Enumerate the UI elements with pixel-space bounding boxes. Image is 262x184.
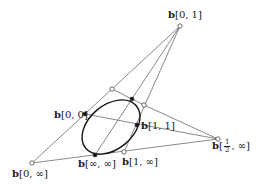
point-b11 — [135, 123, 139, 127]
line-b01-binfinf — [95, 26, 180, 155]
point-b1inf — [122, 150, 126, 154]
label-binfinf-suffix: [∞, ∞] — [85, 158, 116, 169]
label-b11-suffix: [1, 1] — [148, 120, 175, 131]
fraction-one-half: 12 — [224, 139, 230, 154]
label-b11: b[1, 1] — [141, 121, 175, 131]
label-b00: b[0, 0] — [54, 110, 88, 120]
label-b1inf: b[1, ∞] — [122, 157, 158, 167]
label-b01-suffix: [0, 1] — [175, 9, 202, 20]
label-b00-prefix: b — [54, 109, 61, 120]
label-b11-prefix: b — [141, 120, 148, 131]
point-open-b — [142, 103, 146, 107]
label-b0inf: b[0, ∞] — [12, 169, 48, 179]
label-bhalfinf-tail: , ∞] — [231, 140, 250, 151]
label-binfinf: b[∞, ∞] — [78, 159, 116, 169]
label-bhalfinf: b[12, ∞] — [212, 139, 250, 154]
label-b01: b[0, 1] — [168, 10, 202, 20]
label-b01-prefix: b — [168, 9, 175, 20]
point-b01 — [178, 24, 182, 28]
point-b0inf — [30, 161, 34, 165]
point-open-a — [110, 87, 114, 91]
label-binfinf-prefix: b — [78, 158, 85, 169]
label-b0inf-prefix: b — [12, 168, 19, 179]
label-b0inf-suffix: [0, ∞] — [19, 168, 48, 179]
fraction-denominator: 2 — [225, 147, 229, 154]
point-top-tangent — [130, 97, 134, 101]
label-b1inf-prefix: b — [122, 156, 129, 167]
label-b00-suffix: [0, 0] — [61, 109, 88, 120]
ellipse-curve — [72, 89, 151, 165]
point-binfinf — [93, 153, 97, 157]
label-bhalfinf-prefix: b — [212, 140, 219, 151]
line-b01-b1inf — [124, 26, 180, 152]
line-b01-b0inf — [32, 26, 180, 163]
line-opena-openb — [112, 89, 144, 105]
label-b1inf-suffix: [1, ∞] — [129, 156, 158, 167]
